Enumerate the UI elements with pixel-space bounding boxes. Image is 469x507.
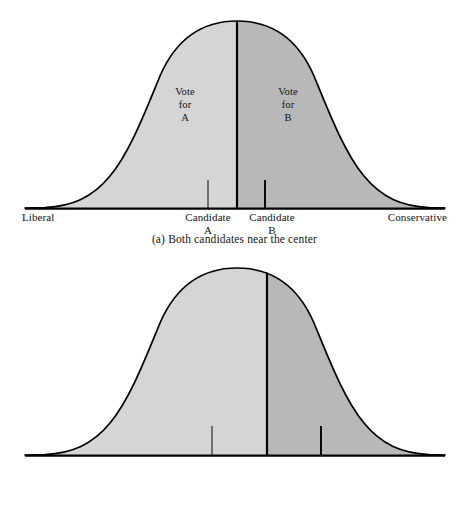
axis-label-conservative: Conservative	[388, 211, 447, 223]
vote-b-line1: Vote	[253, 85, 323, 98]
tick-b-line1: Candidate	[240, 211, 304, 224]
vote-a-area	[25, 21, 445, 208]
figure-panel-a: Vote for A Vote for B Liberal Conservati…	[0, 0, 469, 254]
vote-a-line3: A	[150, 111, 220, 124]
vote-b-line3: B	[253, 111, 323, 124]
figure-panel-b: Vote for A Vote for B Liberal Conservati…	[0, 254, 469, 507]
vote-a-area	[25, 268, 445, 455]
vote-for-b-label: Vote for B	[253, 85, 323, 124]
axis-label-liberal: Liberal	[22, 211, 54, 223]
vote-for-a-label: Vote for A	[150, 85, 220, 124]
figure-caption-a: (a) Both candidates near the center	[0, 233, 469, 245]
bell-curve-chart-b	[0, 254, 469, 507]
vote-a-line2: for	[150, 98, 220, 111]
vote-a-line1: Vote	[150, 85, 220, 98]
tick-a-line1: Candidate	[176, 211, 240, 224]
vote-b-line2: for	[253, 98, 323, 111]
